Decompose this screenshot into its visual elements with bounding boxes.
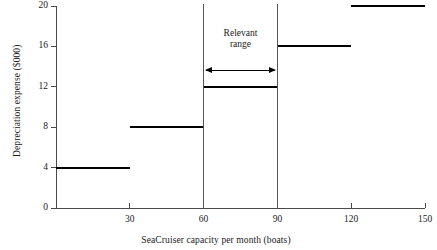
relevant-range-arrow-head-left — [205, 67, 212, 73]
y-axis-tick — [51, 86, 56, 87]
x-axis-tick-label: 60 — [184, 215, 224, 225]
x-axis-title: SeaCruiser capacity per month (boats) — [0, 236, 432, 246]
y-axis-tick-label: 8 — [22, 122, 48, 132]
relevant-range-arrow-line — [206, 70, 276, 71]
y-axis-line — [56, 6, 57, 209]
y-axis-tick-label: 4 — [22, 163, 48, 173]
relevant-range-arrow-head-right — [269, 67, 276, 73]
step-segment — [351, 5, 425, 7]
y-axis-tick — [51, 46, 56, 47]
x-axis-tick — [425, 203, 426, 208]
step-segment — [204, 86, 278, 88]
relevant-range-label: Relevant range — [204, 28, 278, 50]
y-axis-tick — [51, 208, 56, 209]
y-axis-tick-label: 0 — [22, 203, 48, 213]
x-axis-tick-label: 120 — [331, 215, 371, 225]
x-axis-tick-label: 30 — [110, 215, 150, 225]
x-axis-tick-label: 150 — [405, 215, 437, 225]
y-axis-tick — [51, 127, 56, 128]
x-axis-line — [56, 208, 425, 209]
step-segment — [277, 45, 351, 47]
x-axis-tick-label: 90 — [257, 215, 297, 225]
step-segment — [130, 126, 204, 128]
y-axis-tick-label: 20 — [22, 1, 48, 11]
step-segment — [56, 167, 130, 169]
x-axis-tick — [129, 203, 130, 208]
y-axis-tick-label: 12 — [22, 82, 48, 92]
y-axis-tick-label: 16 — [22, 41, 48, 51]
x-axis-tick — [351, 203, 352, 208]
y-axis-tick — [51, 6, 56, 7]
